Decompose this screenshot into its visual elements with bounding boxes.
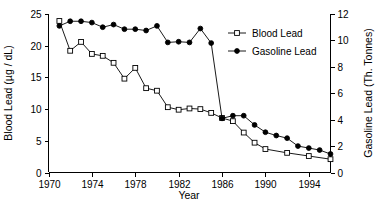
data-point-marker <box>317 148 322 153</box>
data-point-marker <box>241 113 246 118</box>
data-point-marker <box>144 86 149 91</box>
x-tick-label: 1970 <box>38 179 61 190</box>
data-point-marker <box>111 22 116 27</box>
data-point-marker <box>100 25 105 30</box>
y2-tick-label: 10 <box>338 35 350 46</box>
data-point-marker <box>68 48 73 53</box>
y-tick-label: 0 <box>36 168 42 179</box>
x-tick-label: 1990 <box>254 179 277 190</box>
data-point-marker <box>263 147 268 152</box>
data-point-marker <box>111 60 116 65</box>
data-point-marker <box>285 150 290 155</box>
data-point-marker <box>155 88 160 93</box>
legend-marker-filled-circle <box>235 49 240 54</box>
data-point-marker <box>209 111 214 116</box>
data-point-marker <box>176 39 181 44</box>
y-axis-right-title: Gasoline Lead (Th. Tonnes) <box>362 28 374 157</box>
data-point-marker <box>122 76 127 81</box>
data-point-marker <box>198 26 203 31</box>
x-tick-label: 1982 <box>168 179 191 190</box>
data-point-marker <box>241 130 246 135</box>
chart-background <box>0 0 383 205</box>
data-point-marker <box>176 107 181 112</box>
legend-label: Gasoline Lead <box>252 46 317 57</box>
data-point-marker <box>155 23 160 28</box>
data-point-marker <box>274 133 279 138</box>
chart-figure: 0510152025 024681012 1970197419781982198… <box>0 0 383 205</box>
y2-tick-label: 6 <box>338 88 344 99</box>
y-tick-label: 10 <box>30 104 42 115</box>
data-point-marker <box>57 19 62 24</box>
data-point-marker <box>263 130 268 135</box>
data-point-marker <box>230 119 235 124</box>
y-axis-left-title: Blood Lead (µg / dL) <box>2 45 14 140</box>
data-point-marker <box>187 40 192 45</box>
data-point-marker <box>122 27 127 32</box>
y2-tick-label: 12 <box>338 9 350 20</box>
data-point-marker <box>133 65 138 70</box>
x-tick-label: 1994 <box>298 179 321 190</box>
data-point-marker <box>328 152 333 157</box>
x-tick-label: 1978 <box>124 179 147 190</box>
data-point-marker <box>79 19 84 24</box>
data-point-marker <box>220 116 225 121</box>
y-tick-label: 5 <box>36 136 42 147</box>
data-point-marker <box>306 154 311 159</box>
data-point-marker <box>296 144 301 149</box>
data-point-marker <box>68 19 73 24</box>
data-point-marker <box>198 107 203 112</box>
legend-label: Blood Lead <box>252 28 303 39</box>
data-point-marker <box>328 157 333 162</box>
lead-trends-chart: 0510152025 024681012 1970197419781982198… <box>0 0 383 205</box>
y-tick-label: 25 <box>30 9 42 20</box>
y2-tick-label: 0 <box>338 168 344 179</box>
y2-tick-label: 4 <box>338 115 344 126</box>
legend-marker-open-square <box>235 31 240 36</box>
data-point-marker <box>165 40 170 45</box>
data-point-marker <box>306 146 311 151</box>
data-point-marker <box>133 27 138 32</box>
data-point-marker <box>252 140 257 145</box>
data-point-marker <box>165 105 170 110</box>
data-point-marker <box>57 23 62 28</box>
x-axis-title: Year <box>178 189 200 201</box>
x-tick-label: 1986 <box>211 179 234 190</box>
data-point-marker <box>187 106 192 111</box>
y2-tick-label: 8 <box>338 62 344 73</box>
data-point-marker <box>209 41 214 46</box>
data-point-marker <box>89 52 94 57</box>
data-point-marker <box>79 40 84 45</box>
data-point-marker <box>89 20 94 25</box>
y-tick-label: 20 <box>30 41 42 52</box>
data-point-marker <box>230 113 235 118</box>
data-point-marker <box>285 136 290 141</box>
y2-tick-label: 2 <box>338 141 344 152</box>
data-point-marker <box>100 53 105 58</box>
data-point-marker <box>252 123 257 128</box>
data-point-marker <box>144 28 149 33</box>
y-tick-label: 15 <box>30 72 42 83</box>
x-tick-label: 1974 <box>81 179 104 190</box>
